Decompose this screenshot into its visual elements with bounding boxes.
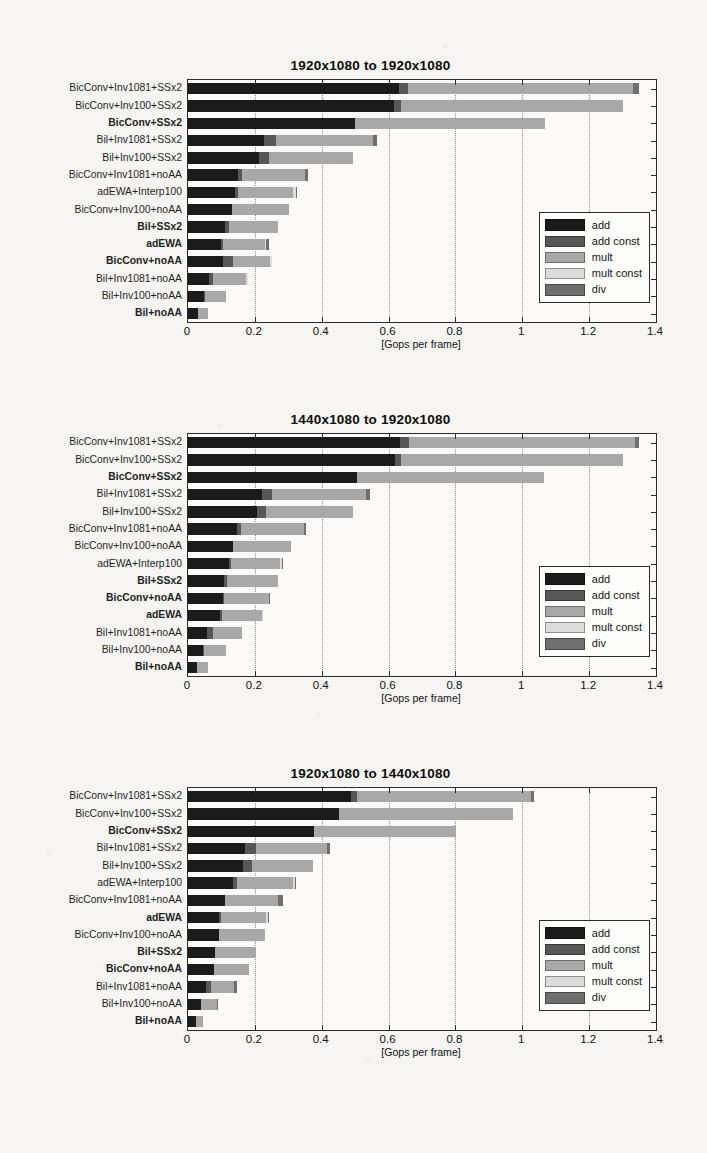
stacked-bar (188, 981, 237, 992)
bar-row: BicConv+Inv100+SSx2 (188, 97, 656, 114)
bar-segment-add (188, 308, 198, 319)
bar-segment-add (188, 273, 209, 284)
x-tick-label: 1.4 (647, 325, 663, 337)
bar-segment-div (373, 135, 377, 146)
legend-item: mult const (545, 620, 642, 636)
bar-row: Bil+noAA (188, 1013, 656, 1030)
x-tick-label: 0.6 (380, 325, 396, 337)
x-tick-labels: 00.20.40.60.811.21.4 (187, 1031, 655, 1047)
axis-tick (522, 80, 523, 85)
bar-segment-mult (232, 204, 289, 215)
bar-segment-add-const (400, 437, 409, 448)
axis-tick (455, 434, 456, 439)
bar-segment-add (188, 541, 233, 552)
bar-segment-mult (222, 610, 262, 621)
bar-row: BicConv+Inv100+noAA (188, 538, 656, 555)
axis-tick (651, 831, 656, 832)
x-axis-title: [Gops per frame] (187, 1046, 655, 1058)
bar-segment-mult (213, 273, 246, 284)
axis-tick (651, 935, 656, 936)
x-tick-label: 0 (184, 679, 190, 691)
axis-tick (322, 671, 323, 676)
bar-segment-add (188, 152, 259, 163)
x-tick-label: 0.8 (446, 325, 462, 337)
axis-tick (651, 529, 656, 530)
axis-tick (651, 900, 656, 901)
legend-item: div (545, 282, 642, 298)
legend-item: mult (545, 603, 642, 619)
legend-label: add (592, 574, 610, 585)
category-label: BicConv+SSx2 (108, 826, 182, 836)
axis-tick (389, 80, 390, 85)
bar-segment-mult (224, 593, 269, 604)
stacked-bar (188, 135, 377, 146)
bar-segment-mult (204, 645, 226, 656)
legend-label: mult const (592, 268, 642, 279)
axis-tick (651, 849, 656, 850)
bar-segment-mult (223, 239, 265, 250)
legend-swatch-mult (545, 606, 585, 618)
chart-legend: addadd constmultmult constdiv (539, 566, 650, 657)
legend-label: div (592, 992, 606, 1003)
stacked-bar (188, 895, 283, 906)
category-label: Bil+Inv1081+SSx2 (97, 843, 183, 853)
legend-item: add (545, 925, 642, 941)
stacked-bar (188, 472, 544, 483)
x-axis-title: [Gops per frame] (187, 338, 655, 350)
category-label: adEWA+Interp100 (97, 559, 182, 569)
bar-row: Bil+Inv100+SSx2 (188, 149, 656, 166)
legend-label: div (592, 638, 606, 649)
axis-tick (255, 788, 256, 793)
axis-tick (651, 477, 656, 478)
bar-row: BicConv+Inv1081+SSx2 (188, 80, 656, 97)
legend-item: add const (545, 587, 642, 603)
stacked-bar (188, 558, 283, 569)
bar-segment-mult (205, 291, 226, 302)
stacked-bar (188, 826, 456, 837)
bar-segment-add (188, 472, 357, 483)
bar-segment-mult (214, 964, 249, 975)
bar-segment-mult-const (262, 610, 263, 621)
stacked-bar (188, 100, 623, 111)
axis-tick (322, 80, 323, 85)
axis-tick (651, 141, 656, 142)
category-label: BicConv+noAA (106, 256, 182, 266)
bar-segment-add (188, 118, 355, 129)
bar-row: Bil+Inv100+SSx2 (188, 857, 656, 874)
bar-segment-add-const (243, 860, 252, 871)
plot-area: BicConv+Inv1081+SSx2BicConv+Inv100+SSx2B… (187, 433, 657, 677)
category-label: BicConv+Inv1081+noAA (69, 895, 182, 905)
plot-area: BicConv+Inv1081+SSx2BicConv+Inv100+SSx2B… (187, 79, 657, 323)
bar-segment-add (188, 558, 229, 569)
axis-tick (589, 317, 590, 322)
bar-segment-div (234, 981, 237, 992)
legend-swatch-add-const (545, 944, 585, 956)
axis-tick (322, 788, 323, 793)
chart-panel-2: 1440x1080 to 1920x1080BicConv+Inv1081+SS… (0, 412, 707, 704)
category-label: adEWA (146, 913, 182, 923)
bar-segment-div (635, 437, 640, 448)
bar-segment-mult (233, 541, 290, 552)
bar-segment-add-const (264, 135, 276, 146)
category-label: BicConv+Inv100+SSx2 (75, 455, 182, 465)
bar-segment-mult (237, 877, 293, 888)
axis-tick (651, 296, 656, 297)
category-label: BicConv+SSx2 (108, 472, 182, 482)
bar-segment-add (188, 964, 214, 975)
axis-tick (455, 788, 456, 793)
bar-segment-mult (401, 100, 623, 111)
axis-tick (522, 671, 523, 676)
bar-segment-add (188, 662, 197, 673)
axis-tick (651, 970, 656, 971)
legend-swatch-add (545, 927, 585, 939)
axis-tick (651, 192, 656, 193)
bar-segment-add-const (395, 454, 402, 465)
stacked-bar (188, 291, 226, 302)
axis-tick (651, 918, 656, 919)
x-tick-label: 0.4 (313, 1033, 329, 1045)
axis-tick (455, 671, 456, 676)
axis-tick (322, 317, 323, 322)
bar-segment-add (188, 135, 264, 146)
bar-segment-add (188, 83, 399, 94)
bar-segment-add (188, 947, 215, 958)
